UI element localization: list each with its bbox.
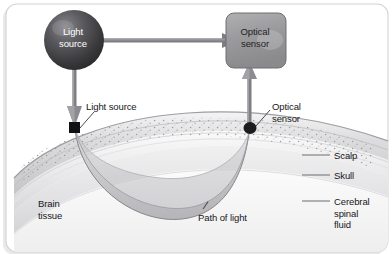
optical-sensor-callout-label: Optical sensor xyxy=(272,101,301,124)
optical-sensor-node-label: Optical sensor xyxy=(225,26,285,49)
path-of-light-callout-label: Path of light xyxy=(198,212,247,224)
cerebral-spinal-fluid-label: Cerebral spinal fluid xyxy=(334,196,370,231)
light-source-node-label: Light source xyxy=(45,26,101,49)
scalp-label: Scalp xyxy=(334,150,357,162)
light-source-marker xyxy=(69,122,80,133)
nirs-head-diagram: Light source Optical sensor Light source… xyxy=(0,0,392,254)
skull-label: Skull xyxy=(334,170,354,182)
optical-sensor-marker xyxy=(244,122,257,134)
light-source-callout-label: Light source xyxy=(86,101,137,113)
brain-tissue-label: Brain tissue xyxy=(38,198,62,221)
